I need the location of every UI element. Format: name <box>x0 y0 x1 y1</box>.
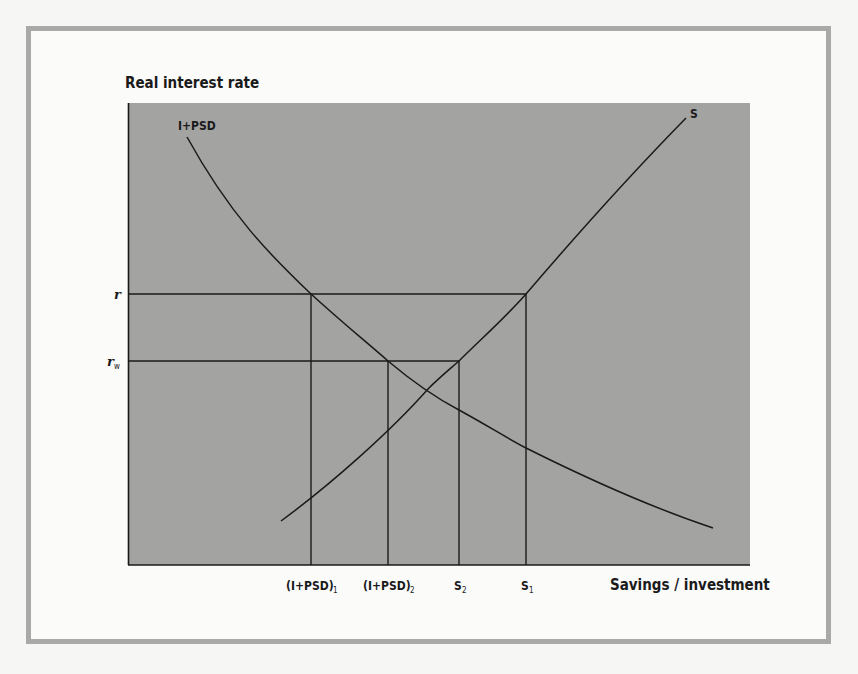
savings-investment-diagram: Real interest rate Savings / investment … <box>0 0 858 674</box>
svg-text:S: S <box>454 579 462 593</box>
x-tick-psd1: (I+PSD) 1 <box>286 579 338 595</box>
x-tick-psd2: (I+PSD) 2 <box>363 579 415 595</box>
s-curve-label: S <box>690 107 698 121</box>
ipsd-curve-label: I+PSD <box>178 119 216 133</box>
y-axis-title: Real interest rate <box>125 74 259 92</box>
svg-text:S: S <box>521 579 529 593</box>
y-tick-r: r <box>114 287 122 302</box>
svg-text:w: w <box>114 362 120 371</box>
svg-text:(I+PSD): (I+PSD) <box>286 579 334 593</box>
x-tick-s2: S 2 <box>454 579 467 595</box>
svg-text:(I+PSD): (I+PSD) <box>363 579 411 593</box>
svg-text:2: 2 <box>462 586 467 595</box>
svg-text:1: 1 <box>333 586 338 595</box>
y-tick-rw: r w <box>107 354 120 371</box>
svg-text:1: 1 <box>529 586 534 595</box>
plot-area <box>128 103 750 565</box>
svg-text:2: 2 <box>410 586 415 595</box>
x-axis-title: Savings / investment <box>610 576 770 594</box>
x-tick-s1: S 1 <box>521 579 534 595</box>
